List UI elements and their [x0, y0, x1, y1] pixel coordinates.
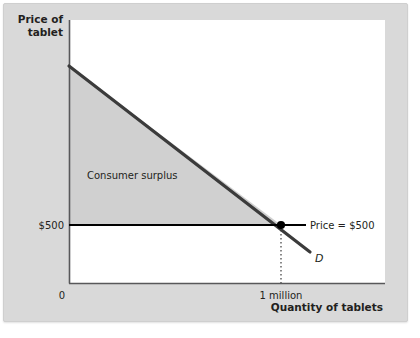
origin-label: 0: [59, 290, 65, 301]
demand-curve-label: D: [315, 252, 323, 265]
y-axis-title-line2: tablet: [28, 26, 63, 38]
figure-root: Price of tablet Quantity of tablets 0 $5…: [0, 0, 420, 338]
equilibrium-point: [277, 221, 285, 229]
price-annotation-label: Price = $500: [310, 220, 375, 231]
x-axis-title: Quantity of tablets: [271, 301, 383, 313]
y-axis-title-line1: Price of: [18, 13, 64, 25]
y-tick-label-500: $500: [39, 220, 64, 231]
x-tick-label-1-million: 1 million: [260, 290, 303, 301]
consumer-surplus-label: Consumer surplus: [87, 170, 178, 181]
consumer-surplus-chart: Price of tablet Quantity of tablets 0 $5…: [0, 0, 420, 338]
